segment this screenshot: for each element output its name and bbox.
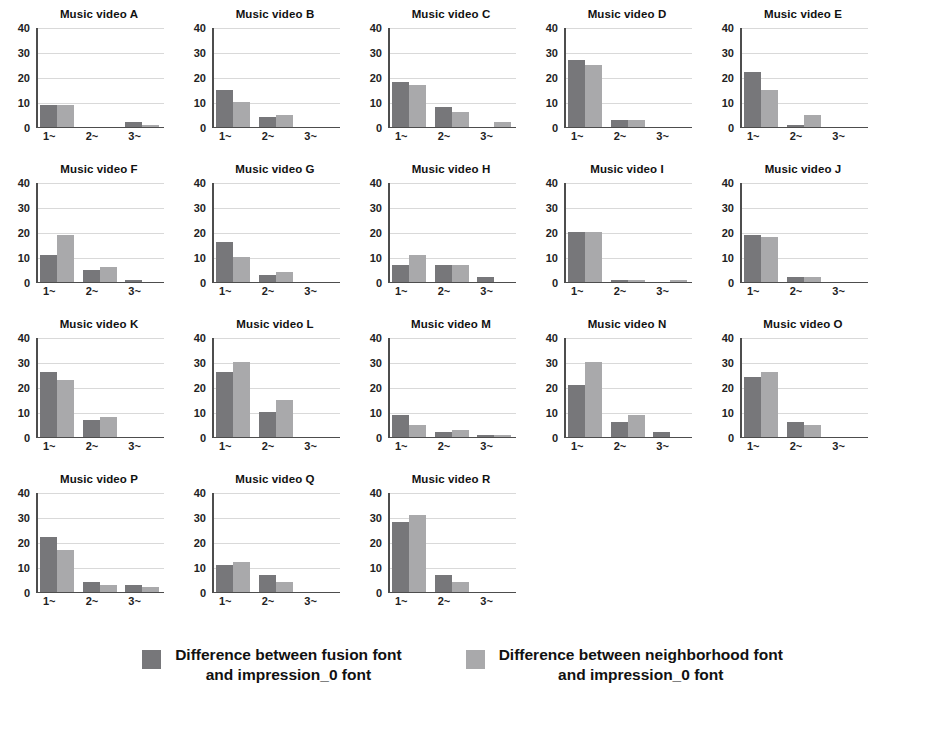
y-tick-label: 20 [370,383,382,394]
bar-group [388,183,431,282]
bar [259,412,276,437]
bar [57,550,74,593]
bar [452,582,469,592]
panel-music-video-h: Music video H0102030401~2~3~ [352,163,528,318]
bar-series-container [388,28,516,127]
x-tick-label: 1~ [36,440,79,452]
x-axis-line [740,282,868,284]
plot-area [564,338,692,438]
x-axis-line [564,437,692,439]
y-tick-label: 0 [24,123,30,134]
bar-group [431,183,474,282]
x-axis-line [212,437,340,439]
x-tick-label: 1~ [36,285,79,297]
bar [216,565,233,593]
bar-group [212,338,255,437]
y-tick-label: 20 [18,383,30,394]
x-axis-line [212,127,340,129]
panel-music-video-o: Music video O0102030401~2~3~ [704,318,880,473]
x-tick-label: 3~ [473,440,516,452]
x-axis-line [740,437,868,439]
bar-group [212,28,255,127]
y-axis-ticks: 010203040 [528,183,560,283]
bar-group [212,183,255,282]
bar-group [297,338,340,437]
y-tick-label: 20 [546,228,558,239]
y-tick-label: 30 [370,513,382,524]
x-axis-ticks: 1~2~3~ [212,440,340,452]
bar [744,72,761,127]
panel-title: Music video C [352,8,528,20]
y-tick-label: 10 [370,408,382,419]
bar-series-container [388,338,516,437]
bar [568,385,585,438]
plot-area [740,338,868,438]
y-tick-label: 0 [24,433,30,444]
y-tick-label: 30 [194,48,206,59]
y-tick-label: 20 [194,383,206,394]
bar [276,115,293,128]
bar-series-container [740,338,868,437]
x-axis-line [212,282,340,284]
y-tick-label: 30 [18,358,30,369]
x-axis-ticks: 1~2~3~ [740,130,868,142]
bar-group [473,183,516,282]
y-axis-ticks: 010203040 [352,338,384,438]
bar-group [649,338,692,437]
x-tick-label: 1~ [564,440,607,452]
x-tick-label: 3~ [473,595,516,607]
x-tick-label: 3~ [649,440,692,452]
y-tick-label: 0 [200,588,206,599]
y-tick-label: 10 [18,98,30,109]
x-axis-ticks: 1~2~3~ [564,285,692,297]
x-tick-label: 2~ [79,130,122,142]
bar-group [825,183,868,282]
bar [83,420,100,438]
x-axis-line [388,592,516,594]
bar [83,270,100,283]
panel-music-video-j: Music video J0102030401~2~3~ [704,163,880,318]
y-tick-label: 40 [370,333,382,344]
y-axis-ticks: 010203040 [0,338,32,438]
x-axis-ticks: 1~2~3~ [36,130,164,142]
bar [435,265,452,283]
bar-series-container [36,338,164,437]
x-tick-label: 2~ [255,440,298,452]
y-axis-line [388,28,390,128]
x-axis-line [388,282,516,284]
bar-group [473,493,516,592]
legend-swatch-fusion-icon [142,650,161,669]
x-axis-ticks: 1~2~3~ [740,440,868,452]
bar-group [783,183,826,282]
bar [40,372,57,437]
x-tick-label: 2~ [431,595,474,607]
bar [392,265,409,283]
x-axis-ticks: 1~2~3~ [740,285,868,297]
bar [761,372,778,437]
panel-title: Music video A [0,8,176,20]
bar-group [79,493,122,592]
bar-group [121,28,164,127]
x-tick-label: 1~ [564,285,607,297]
plot-area [36,183,164,283]
x-tick-label: 2~ [607,440,650,452]
bar [568,60,585,128]
bar-group [564,338,607,437]
bar [57,380,74,438]
bar-group [297,28,340,127]
plot-area [388,493,516,593]
bar-group [255,28,298,127]
bar-group [783,28,826,127]
x-tick-label: 2~ [783,285,826,297]
y-tick-label: 30 [18,48,30,59]
panel-music-video-b: Music video B0102030401~2~3~ [176,8,352,163]
bar [57,235,74,283]
x-tick-label: 2~ [607,285,650,297]
x-tick-label: 1~ [36,130,79,142]
bar [100,267,117,282]
panel-title: Music video Q [176,473,352,485]
bar [409,515,426,593]
bar [40,255,57,283]
bar [40,105,57,128]
bar-group [121,338,164,437]
